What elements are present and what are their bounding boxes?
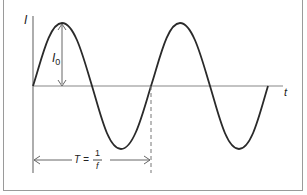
period-label: T = bbox=[74, 155, 89, 165]
sine-wave-diagram bbox=[0, 0, 307, 195]
amplitude-label: I0 bbox=[52, 52, 60, 64]
period-denominator: f bbox=[96, 162, 99, 171]
y-axis-label: I bbox=[24, 14, 27, 26]
period-numerator: 1 bbox=[95, 149, 100, 158]
x-axis-label: t bbox=[284, 87, 287, 98]
amplitude-subscript: 0 bbox=[55, 57, 60, 67]
